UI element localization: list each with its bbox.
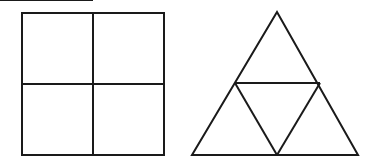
geometry-figure-canvas (0, 0, 374, 167)
figures-svg (0, 0, 374, 167)
triangle-midsegment-right-diagonal (277, 83, 320, 155)
triangle-figure (192, 12, 358, 155)
square-figure (0, 0, 164, 155)
triangle-midsegment-left-diagonal (235, 83, 277, 155)
